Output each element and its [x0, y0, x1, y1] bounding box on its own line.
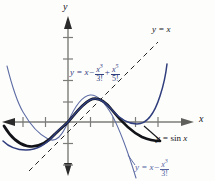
label-taylor-degree5: y = x−x33!+x55! [70, 63, 120, 84]
x-axis-arrow-right [181, 118, 194, 126]
sine-label-lead: y = [156, 133, 171, 143]
taylor5-minus: − [89, 67, 95, 77]
taylor5-lead: y = x [70, 67, 89, 77]
taylor3-frac-denominator: 3! [160, 170, 169, 179]
y-axis-label: y [63, 2, 67, 12]
x-axis-label: x [199, 114, 203, 124]
curve-y-equals-x [29, 42, 158, 171]
taylor3-lead: y = x [135, 162, 154, 172]
taylor3-frac-num-exponent: 3 [165, 158, 168, 164]
taylor3-frac: x33! [160, 158, 169, 179]
y-axis-arrow-up [64, 16, 72, 29]
taylor5-frac1-numerator: x3 [95, 63, 104, 75]
taylor5-frac1-num-exponent: 3 [100, 63, 103, 69]
taylor-approximation-figure: y x y = x y = x−x33!+x55! y = sin x y = … [0, 0, 215, 181]
taylor5-frac2-numerator: x5 [111, 63, 120, 75]
axes-group [2, 16, 194, 176]
taylor5-frac1: x33! [95, 63, 104, 84]
taylor3-minus: − [154, 162, 160, 172]
taylor5-frac1-denominator: 3! [95, 75, 104, 84]
sine-label-arg: x [183, 133, 187, 143]
taylor5-frac2-num-exponent: 5 [116, 63, 119, 69]
label-line-y-equals-x: y = x [152, 25, 171, 34]
taylor3-frac-numerator: x3 [160, 158, 169, 170]
taylor5-frac2: x55! [111, 63, 120, 84]
label-taylor-degree3: y = x−x33! [135, 158, 169, 179]
sine-label-function: sin [171, 133, 182, 143]
taylor5-plus: + [104, 67, 110, 77]
label-sine-curve: y = sin x [156, 134, 187, 143]
plot-canvas [0, 0, 215, 181]
taylor5-frac2-denominator: 5! [111, 75, 120, 84]
